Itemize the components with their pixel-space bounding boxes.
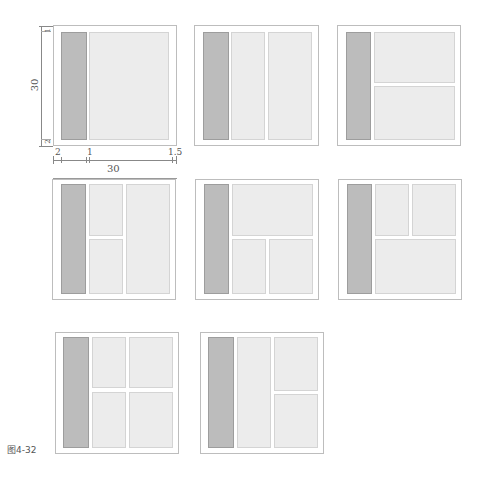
dim-horizontal-total: 30 [107, 164, 120, 174]
content-cell-bottom-right [269, 239, 313, 294]
sidebar-column [61, 32, 87, 140]
dim-gutter: 1 [87, 148, 93, 157]
dim-left-margin: 2 [55, 148, 61, 157]
sidebar-column [61, 184, 86, 294]
content-cell-top-right [274, 337, 318, 391]
dim-bottom-margin: 2 [45, 139, 52, 143]
sidebar-column [346, 32, 371, 140]
content-row-top [374, 32, 455, 83]
layout-panel-2 [194, 25, 319, 146]
dim-tick [39, 146, 53, 147]
horizontal-dimension-line [53, 160, 177, 161]
sidebar-column [203, 32, 229, 140]
figure-caption: 图4-32 [7, 443, 36, 456]
sidebar-column [63, 337, 89, 448]
layout-panel-7 [55, 332, 179, 454]
dim-tick [61, 157, 62, 163]
content-cell-bottom-left [232, 239, 266, 294]
content-cell-bottom-right [129, 392, 173, 448]
dim-tick [39, 26, 53, 27]
content-column-1 [231, 32, 265, 140]
vertical-dimension-line [41, 26, 42, 146]
content-cell-top-right [412, 184, 456, 236]
layout-panel-8 [200, 332, 324, 454]
sidebar-column [204, 184, 229, 294]
sidebar-column [347, 184, 372, 294]
content-column-left [237, 337, 271, 448]
dim-tick [89, 157, 90, 163]
dim-tick [53, 156, 54, 164]
content-cell-bottom-left [89, 239, 123, 294]
sidebar-column [208, 337, 234, 448]
content-column-right [126, 184, 170, 294]
content-cell-bottom-right [274, 394, 318, 448]
content-cell-top-right [129, 337, 173, 388]
dim-tick [176, 156, 177, 164]
dim-tick [172, 157, 173, 163]
layout-panel-4 [52, 179, 176, 300]
content-cell-top-left [92, 337, 126, 388]
content-cell-top-left [375, 184, 409, 236]
content-row-top [232, 184, 313, 236]
layout-panel-1 [53, 25, 177, 146]
layout-panel-6 [338, 179, 462, 300]
content-row-bottom [374, 86, 455, 140]
content-column-2 [268, 32, 312, 140]
layout-panel-3 [337, 25, 461, 146]
content-row-bottom [375, 239, 456, 294]
content-area [89, 32, 169, 140]
dim-vertical-total: 30 [30, 79, 40, 92]
content-cell-top-left [89, 184, 123, 236]
content-cell-bottom-left [92, 392, 126, 448]
dim-top-margin: 1 [45, 28, 52, 32]
layout-panel-5 [195, 179, 319, 300]
dim-tick [86, 157, 87, 163]
